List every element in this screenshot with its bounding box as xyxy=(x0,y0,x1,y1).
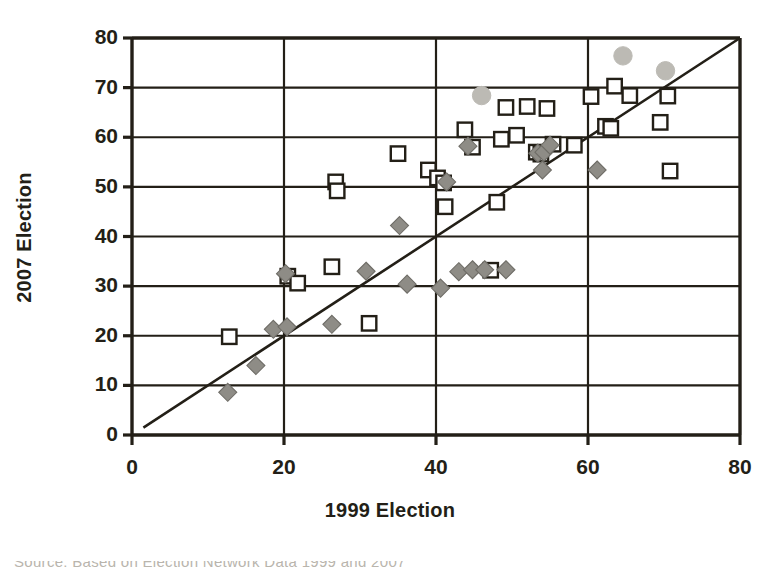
data-point-square xyxy=(325,260,339,274)
plot-canvas xyxy=(0,0,780,573)
data-point-square xyxy=(490,195,504,209)
data-point-diamond xyxy=(391,217,409,235)
caption-strip: Source: Based on Election Network Data 1… xyxy=(0,561,780,573)
data-point-square xyxy=(362,316,376,330)
data-point-square xyxy=(438,200,452,214)
scatter-plot-figure: 2007 Election 1999 Election 010203040506… xyxy=(0,0,780,573)
identity-line xyxy=(143,38,740,428)
data-point-square xyxy=(509,128,523,142)
data-point-square xyxy=(330,184,344,198)
source-caption: Source: Based on Election Network Data 1… xyxy=(14,561,406,570)
data-point-square xyxy=(391,146,405,160)
data-point-circle xyxy=(472,86,490,104)
data-point-square xyxy=(520,99,534,113)
data-point-square xyxy=(222,330,236,344)
data-point-square xyxy=(458,123,472,137)
data-point-square xyxy=(540,101,554,115)
data-point-diamond xyxy=(497,261,515,279)
data-point-square xyxy=(584,89,598,103)
data-point-square xyxy=(499,100,513,114)
data-points xyxy=(219,47,678,402)
data-point-square xyxy=(661,89,675,103)
series-open-square xyxy=(222,79,677,344)
series-gray-diamond xyxy=(219,136,606,401)
series-light-gray-circle xyxy=(472,47,674,105)
data-point-diamond xyxy=(398,275,416,293)
data-point-square xyxy=(607,79,621,93)
data-point-circle xyxy=(614,47,632,65)
data-point-square xyxy=(623,88,637,102)
data-point-square xyxy=(494,132,508,146)
data-point-diamond xyxy=(588,161,606,179)
data-point-square xyxy=(604,121,618,135)
data-point-circle xyxy=(656,62,674,80)
data-point-diamond xyxy=(278,318,296,336)
identity-reference-line xyxy=(143,38,740,428)
data-point-square xyxy=(663,164,677,178)
data-point-square xyxy=(567,138,581,152)
data-point-square xyxy=(653,115,667,129)
data-point-diamond xyxy=(432,279,450,297)
data-point-square xyxy=(290,276,304,290)
data-point-diamond xyxy=(323,315,341,333)
